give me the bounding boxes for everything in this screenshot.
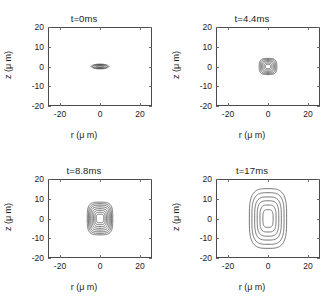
x-tick-mark [60,255,61,258]
y-tick-mark [317,258,320,259]
x-tick-mark [228,103,229,106]
y-tick-mark [317,67,320,68]
contour-line [90,205,111,232]
contour-line [255,197,282,240]
y-tick-mark [48,27,51,28]
x-tick-mark [228,179,229,182]
plot-area [48,179,152,258]
y-tick-label: 0 [18,62,44,72]
y-tick-mark [149,258,152,259]
contour-line [262,61,275,73]
contour-group-t8-8 [49,180,151,257]
y-tick-mark [149,106,152,107]
panel-t8-8: t=8.8ms r (μ m) z (μ m) -2002020100-10-2… [0,152,168,304]
y-tick-mark [149,238,152,239]
y-tick-label: 10 [186,194,212,204]
y-tick-mark [317,86,320,87]
y-tick-mark [216,219,219,220]
y-tick-mark [216,106,219,107]
figure-canvas: t=0ms r (μ m) z (μ m) -2002020100-10-20 … [0,0,336,305]
y-tick-label: 0 [186,62,212,72]
y-tick-label: 20 [18,174,44,184]
y-tick-mark [149,179,152,180]
y-tick-label: -20 [18,101,44,111]
y-tick-mark [48,219,51,220]
y-tick-label: -20 [186,253,212,263]
contour-line [94,210,107,226]
y-tick-mark [216,258,219,259]
x-tick-mark [308,255,309,258]
y-tick-mark [216,238,219,239]
y-tick-mark [317,179,320,180]
y-tick-label: 20 [186,22,212,32]
x-tick-mark [140,179,141,182]
x-tick-mark [100,179,101,182]
y-tick-mark [48,86,51,87]
x-tick-mark [308,179,309,182]
contour-group-t4-4 [217,28,319,105]
y-tick-label: -10 [18,233,44,243]
plot-area [216,179,320,258]
y-axis-label: z (μ m) [3,43,13,87]
y-tick-mark [48,67,51,68]
x-tick-mark [60,103,61,106]
x-tick-mark [268,255,269,258]
y-tick-mark [317,106,320,107]
y-tick-mark [317,47,320,48]
contour-line [260,205,276,232]
plot-area [216,27,320,106]
x-axis-label: r (μ m) [168,282,336,292]
x-tick-label: 0 [266,109,271,119]
y-tick-mark [149,67,152,68]
y-tick-label: 0 [18,214,44,224]
y-tick-label: 20 [186,174,212,184]
x-tick-mark [140,103,141,106]
x-tick-label: 20 [135,109,144,119]
x-tick-label: -20 [222,261,234,271]
x-tick-mark [268,179,269,182]
x-tick-mark [308,103,309,106]
plot-area [48,27,152,106]
x-axis-label: r (μ m) [0,130,168,140]
contour-line [257,201,279,236]
contour-line [263,210,273,228]
x-tick-mark [228,27,229,30]
contour-group-t17 [217,180,319,257]
y-tick-mark [216,179,219,180]
x-tick-mark [140,255,141,258]
y-tick-label: 10 [186,42,212,52]
y-tick-label: -10 [18,81,44,91]
y-tick-mark [48,47,51,48]
x-tick-label: -20 [54,109,66,119]
x-axis-label: r (μ m) [168,130,336,140]
x-tick-label: 20 [303,109,312,119]
y-tick-label: 10 [18,194,44,204]
y-tick-mark [48,258,51,259]
panel-t0: t=0ms r (μ m) z (μ m) -2002020100-10-20 [0,0,168,152]
y-tick-mark [216,86,219,87]
y-tick-mark [48,106,51,107]
y-tick-label: 20 [18,22,44,32]
y-tick-mark [317,219,320,220]
x-tick-mark [60,27,61,30]
contour-line [96,214,103,222]
x-tick-mark [100,103,101,106]
panel-t17: t=17ms r (μ m) z (μ m) -2002020100-10-20 [168,152,336,304]
y-tick-label: -20 [186,101,212,111]
x-tick-label: 20 [135,261,144,271]
x-tick-mark [140,27,141,30]
x-tick-label: 0 [98,261,103,271]
panel-t4-4: t=4.4ms r (μ m) z (μ m) -2002020100-10-2… [168,0,336,152]
y-tick-mark [48,238,51,239]
x-tick-mark [268,27,269,30]
x-tick-mark [60,179,61,182]
x-tick-label: 0 [266,261,271,271]
x-tick-mark [268,103,269,106]
x-tick-label: 20 [303,261,312,271]
x-tick-label: -20 [222,109,234,119]
y-tick-mark [216,199,219,200]
y-tick-label: -10 [186,81,212,91]
y-tick-mark [48,199,51,200]
y-tick-mark [216,47,219,48]
x-tick-mark [100,27,101,30]
